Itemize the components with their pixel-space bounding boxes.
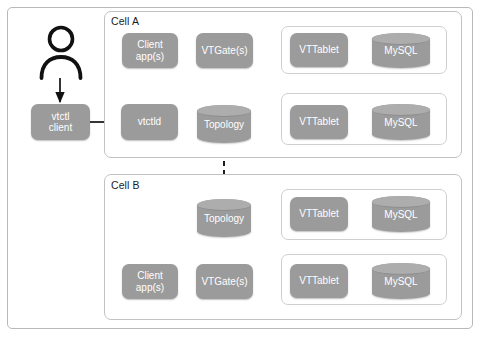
cell-b-shard-2-vttablet-node[interactable]: VTTablet: [290, 264, 348, 298]
cell-a-shard-2-vttablet-label: VTTablet: [297, 116, 340, 128]
cell-b-client-app-label-line1: Client: [135, 270, 165, 282]
cell-b-shard-2-mysql-cylinder[interactable]: MySQL: [372, 263, 430, 299]
user-actor-icon: [36, 22, 86, 80]
cell-a-shard-1-vttablet-node[interactable]: VTTablet: [290, 33, 348, 67]
cell-a-topology-cylinder[interactable]: Topology: [197, 105, 251, 143]
cell-a-vtgate-label: VTGate(s): [199, 45, 249, 57]
diagram-canvas: vtctl client Cell A Client app(s) VTGate…: [0, 0, 480, 337]
cell-b-shard-1-vttablet-node[interactable]: VTTablet: [290, 197, 348, 231]
cell-b-shard-1-vttablet-label: VTTablet: [297, 208, 340, 220]
cell-a-client-app-node[interactable]: Client app(s): [122, 33, 178, 68]
cell-b-vtgate-node[interactable]: VTGate(s): [196, 264, 253, 299]
cell-b-topology-cylinder[interactable]: Topology: [197, 199, 251, 237]
cell-b-client-app-node[interactable]: Client app(s): [122, 264, 178, 299]
cell-a-shard-1-vttablet-label: VTTablet: [297, 44, 340, 56]
cell-a-shard-2-mysql-label: MySQL: [384, 117, 417, 128]
cell-a-shard-2-mysql-cylinder[interactable]: MySQL: [372, 104, 430, 140]
cell-b-vtgate-label: VTGate(s): [199, 276, 249, 288]
vtctl-client-label-line1: vtctl: [50, 111, 72, 123]
cell-b-label: Cell B: [111, 179, 140, 191]
cell-a-shard-1-mysql-cylinder[interactable]: MySQL: [372, 33, 430, 68]
cell-a-client-app-label-line2: app(s): [134, 51, 166, 63]
vtctl-client-label-line2: client: [47, 122, 74, 134]
cell-a-shard-2-vttablet-node[interactable]: VTTablet: [290, 105, 348, 139]
cell-a-vtgate-node[interactable]: VTGate(s): [196, 33, 253, 68]
cell-a-shard-1-mysql-label: MySQL: [384, 45, 417, 56]
cell-b-topology-label: Topology: [204, 213, 244, 224]
cell-b-shard-1-mysql-label: MySQL: [384, 209, 417, 220]
cell-b-shard-1-mysql-cylinder[interactable]: MySQL: [372, 196, 430, 232]
cell-a-vtctld-label: vtctld: [136, 116, 163, 128]
cell-b-shard-2-mysql-label: MySQL: [384, 276, 417, 287]
cell-b-client-app-label-line2: app(s): [134, 282, 166, 294]
cell-b-shard-2-vttablet-label: VTTablet: [297, 275, 340, 287]
cell-a-vtctld-node[interactable]: vtctld: [121, 104, 178, 140]
cell-a-client-app-label-line1: Client: [135, 39, 165, 51]
cell-a-topology-label: Topology: [204, 119, 244, 130]
cell-a-label: Cell A: [111, 15, 139, 27]
vtctl-client-node[interactable]: vtctl client: [31, 104, 90, 140]
